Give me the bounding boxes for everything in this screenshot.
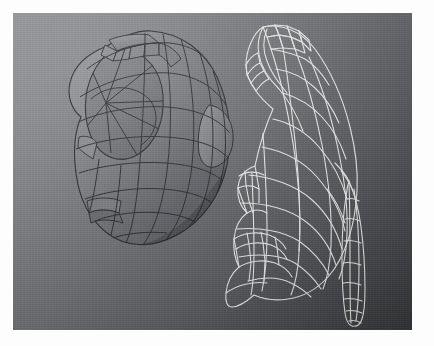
wireframe-hook-inner [258,27,303,131]
wireframe-model-group [226,25,365,326]
model-wireframe-organic-shell[interactable] [13,13,412,330]
wireframe-long-6 [251,173,254,295]
wireframe-lat-4 [273,119,347,199]
wireframe-mouth-cavity [226,232,292,293]
wireframe-lat-5 [262,147,345,231]
viewport-3d[interactable] [13,13,412,330]
wireframe-lat-10 [248,278,311,297]
wireframe-outline [226,26,357,307]
wireframe-lat-9 [239,255,321,289]
wireframe-long-4 [283,48,300,251]
screenshot-root [0,0,434,346]
wireframe-lat-7 [242,203,336,265]
